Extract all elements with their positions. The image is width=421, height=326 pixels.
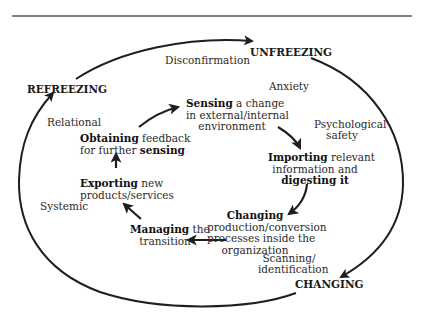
step-line: Importing relevant <box>268 152 362 164</box>
step-line: transition <box>130 236 200 248</box>
step-keyword: Exporting <box>80 177 138 189</box>
step-line: organization <box>207 245 303 257</box>
step-obtaining: Obtaining feedback for further sensing <box>80 133 176 156</box>
step-sensing: Sensing a change in external/internal en… <box>186 98 278 133</box>
annotation-line: safety <box>314 130 370 141</box>
step-managing: Managing the transition <box>130 224 200 247</box>
step-text: for further <box>80 144 140 156</box>
step-text: the <box>189 223 210 235</box>
step-line: digesting it <box>268 175 362 187</box>
step-keyword: sensing <box>140 144 185 156</box>
step-line: Managing the <box>130 224 200 236</box>
step-text: relevant <box>328 151 375 163</box>
step-keyword: Obtaining <box>80 132 139 144</box>
step-importing: Importing relevant information and diges… <box>268 152 362 187</box>
step-changing: Changing production/conversion processes… <box>207 210 303 256</box>
step-line: Sensing a change <box>186 98 278 110</box>
step-keyword: Changing <box>227 209 284 221</box>
stage-refreezing: REFREEZING <box>27 84 107 95</box>
step-text: feedback <box>139 132 191 144</box>
step-line: products/services <box>80 190 160 202</box>
step-line: Changing <box>207 210 303 222</box>
arrow-managing-to-exporting <box>124 204 141 219</box>
stage-changing: CHANGING <box>295 279 363 290</box>
step-text: new <box>138 177 163 189</box>
step-text: a change <box>233 97 285 109</box>
annotation-psychological-safety: Psychological safety <box>314 119 370 141</box>
annotation-line: identification <box>258 264 320 275</box>
step-line: environment <box>186 121 278 133</box>
step-line: for further sensing <box>80 145 176 157</box>
stage-unfreezing: UNFREEZING <box>250 47 332 58</box>
annotation-scanning-identification: Scanning/ identification <box>258 253 320 275</box>
arrow-sensing-to-importing <box>278 127 300 148</box>
step-keyword: Managing <box>130 223 189 235</box>
step-line: Exporting new <box>80 178 160 190</box>
step-exporting: Exporting new products/services <box>80 178 160 201</box>
step-keyword: digesting it <box>281 174 349 186</box>
annotation-relational: Relational <box>47 117 101 128</box>
annotation-systemic: Systemic <box>40 201 88 212</box>
step-line: processes inside the <box>207 233 303 245</box>
annotation-disconfirmation: Disconfirmation <box>165 55 250 66</box>
step-keyword: Importing <box>268 151 328 163</box>
step-keyword: Sensing <box>186 97 233 109</box>
annotation-anxiety: Anxiety <box>269 81 309 92</box>
arrow-obtaining-to-sensing <box>139 107 178 127</box>
